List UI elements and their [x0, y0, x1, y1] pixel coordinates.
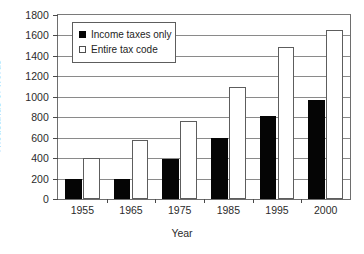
- x-axis-title: Year: [0, 227, 364, 239]
- y-axis-tick-label: 1600: [25, 29, 49, 41]
- bar: [308, 100, 325, 199]
- gridline: [58, 117, 350, 118]
- bar: [229, 87, 246, 199]
- y-axis-tick-label: 1800: [25, 9, 49, 21]
- bar: [211, 138, 228, 199]
- legend-item-income-taxes-only: Income taxes only: [79, 27, 169, 42]
- bar-chart: 020040060080010001200140016001800 Income…: [0, 0, 364, 254]
- x-axis-tick: [204, 199, 205, 203]
- bar: [65, 179, 82, 199]
- legend-item-entire-tax-code: Entire tax code: [79, 42, 169, 57]
- y-axis-title: Thousands of words: [0, 32, 2, 182]
- x-axis-category-label: 2000: [314, 204, 337, 216]
- y-axis-tick: [53, 199, 58, 200]
- y-axis-tick-label: 400: [31, 152, 49, 164]
- gridline: [58, 76, 350, 77]
- bar: [114, 179, 131, 199]
- x-axis-category-label: 1995: [265, 204, 288, 216]
- bar: [180, 121, 197, 199]
- y-axis-tick: [53, 158, 58, 159]
- y-axis-tick: [53, 56, 58, 57]
- bar: [162, 159, 179, 199]
- gridline: [58, 138, 350, 139]
- y-axis-tick-label: 800: [31, 111, 49, 123]
- legend-label-entire: Entire tax code: [91, 44, 158, 55]
- y-axis-tick: [53, 35, 58, 36]
- y-axis-tick: [53, 97, 58, 98]
- y-axis-tick: [53, 76, 58, 77]
- x-axis-tick: [107, 199, 108, 203]
- y-axis-tick-label: 1200: [25, 70, 49, 82]
- chart-legend: Income taxes only Entire tax code: [72, 22, 176, 63]
- bar: [278, 47, 295, 199]
- y-axis-tick-label: 0: [43, 193, 49, 205]
- y-axis-tick: [53, 179, 58, 180]
- legend-swatch-icon-entire: [79, 46, 86, 53]
- x-axis-tick: [155, 199, 156, 203]
- x-axis-category-label: 1965: [119, 204, 142, 216]
- plot-area: 020040060080010001200140016001800 Income…: [57, 14, 351, 200]
- bar: [326, 30, 343, 199]
- gridline: [58, 97, 350, 98]
- y-axis-tick-label: 1400: [25, 50, 49, 62]
- x-axis-tick: [301, 199, 302, 203]
- gridline: [58, 158, 350, 159]
- bar: [132, 140, 149, 199]
- x-axis-category-label: 1955: [71, 204, 94, 216]
- legend-label-income: Income taxes only: [91, 29, 172, 40]
- y-axis-tick: [53, 15, 58, 16]
- x-axis-category-label: 1975: [168, 204, 191, 216]
- y-axis-tick: [53, 117, 58, 118]
- y-axis-tick: [53, 138, 58, 139]
- y-axis-tick-label: 1000: [25, 91, 49, 103]
- x-axis-category-label: 1985: [217, 204, 240, 216]
- gridline: [58, 179, 350, 180]
- x-axis-tick: [253, 199, 254, 203]
- legend-swatch-icon-income: [79, 31, 86, 38]
- bar: [83, 158, 100, 199]
- y-axis-tick-label: 600: [31, 132, 49, 144]
- y-axis-tick-label: 200: [31, 173, 49, 185]
- bar: [260, 116, 277, 199]
